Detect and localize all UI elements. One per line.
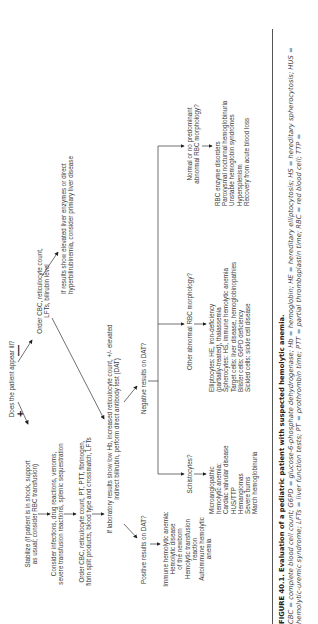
other-abnormal-result: Elliptocytes: HE, iron-deficiency (parti… bbox=[208, 232, 251, 392]
order-labs-ill-step: Order CBC, reticulocyte count, PT, PTT, … bbox=[78, 419, 92, 604]
normal-morphology-result: RBC enzyme disorders Paroxysmal nocturna… bbox=[214, 66, 250, 206]
other-abnormal-question: Other abnormal RBC morphology? bbox=[186, 264, 193, 379]
stabilize-step: Stabilize (if patient is in shock, suppo… bbox=[24, 434, 38, 594]
lab-results-step: If laboratory results show low Hb, incre… bbox=[106, 294, 120, 564]
figure-canvas: Does the patient appear ill? + — Stabili… bbox=[0, 0, 318, 624]
liver-disease-note: If results show elevated liver enzymes o… bbox=[60, 114, 74, 294]
normal-morphology-question: Normal or no predominant abnormal RBC mo… bbox=[186, 89, 200, 199]
figure-title: Evaluation of a pediatric patient with s… bbox=[278, 314, 286, 572]
schistocytes-question: Schistocytes? bbox=[186, 439, 193, 509]
consider-causes-step: Consider infections, drug reactions, ven… bbox=[50, 424, 64, 604]
microangiopathic-result: Microangiopathic hemolytic anemia: Cardi… bbox=[208, 414, 258, 514]
plus-sign: + bbox=[14, 411, 26, 417]
figure-abbreviations: CBC = complete blood cell count; G6PD = … bbox=[287, 47, 304, 624]
figure-caption: FIGURE 40.1. Evaluation of a pediatric p… bbox=[278, 24, 304, 624]
negative-dat-question: Negative results on DAT? bbox=[140, 314, 147, 414]
positive-dat-question: Positive results on DAT? bbox=[140, 484, 147, 584]
caption-divider bbox=[272, 29, 273, 624]
minus-sign: — bbox=[12, 345, 24, 356]
order-labs-not-ill-step: Order CBC, reticulocyte count, LFTs, bil… bbox=[36, 236, 50, 346]
figure-label: FIGURE 40.1. bbox=[278, 574, 286, 624]
immune-hemolytic-result: Immune hemolytic anemia: Hemolytic disea… bbox=[162, 504, 212, 594]
